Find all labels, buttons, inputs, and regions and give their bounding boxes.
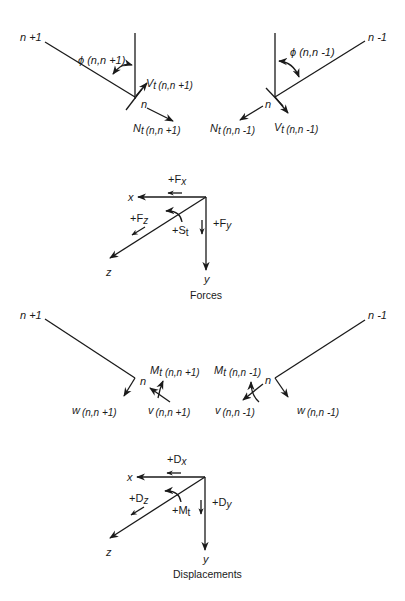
shear-label: Vt(n,n +1) bbox=[146, 77, 193, 91]
angle-label: ϕ (n,n -1) bbox=[290, 46, 335, 58]
displacements-left-member: n +1 n Mt(n,n +1) w(n,n +1) v(n,n +1) bbox=[20, 309, 200, 418]
z-axis-label: z bbox=[105, 266, 112, 278]
moment-label: Mt(n,n -1) bbox=[214, 364, 261, 378]
displacements-right-member: n -1 n Mt(n,n -1) v(n,n -1) w(n,n -1) bbox=[214, 309, 387, 418]
far-node-label: n +1 bbox=[20, 309, 42, 321]
forces-caption: Forces bbox=[190, 289, 222, 301]
node-label: n bbox=[140, 375, 146, 387]
v-label: v(n,n +1) bbox=[148, 404, 190, 418]
moment-label: Mt(n,n +1) bbox=[150, 364, 200, 378]
fx-label: +Fx bbox=[168, 173, 187, 187]
dz-label: +Dz bbox=[129, 492, 148, 506]
w-arrow-icon bbox=[275, 378, 288, 397]
displacements-caption: Displacements bbox=[173, 568, 242, 580]
diagram-canvas: n +1 n ϕ (n,n +1) Vt(n,n +1) Nt(n,n +1) … bbox=[0, 0, 405, 601]
fy-label: +Fy bbox=[213, 217, 232, 231]
y-axis-label: y bbox=[202, 553, 210, 565]
member-line bbox=[275, 320, 365, 378]
far-node-label: n -1 bbox=[368, 309, 387, 321]
shear-arrow-icon bbox=[275, 97, 288, 113]
normal-label: Nt(n,n -1) bbox=[210, 122, 255, 136]
dz-arrow-icon bbox=[131, 507, 144, 515]
z-axis-arrow-icon bbox=[110, 477, 205, 538]
node-label: n bbox=[265, 374, 271, 386]
moment-arrow-icon bbox=[251, 382, 259, 402]
node-label: n bbox=[141, 98, 147, 110]
w-label: w(n,n +1) bbox=[72, 404, 117, 418]
rotation-label: +Mt bbox=[172, 504, 191, 518]
forces-left-member: n +1 n ϕ (n,n +1) Vt(n,n +1) Nt(n,n +1) bbox=[20, 31, 193, 136]
w-label: w(n,n -1) bbox=[297, 404, 339, 418]
dx-label: +Dx bbox=[167, 453, 187, 467]
node-label: n bbox=[265, 98, 271, 110]
normal-arrow-icon bbox=[147, 108, 173, 121]
normal-label: Nt(n,n +1) bbox=[133, 122, 180, 136]
fz-arrow-icon bbox=[132, 227, 145, 235]
x-axis-label: x bbox=[126, 471, 133, 483]
shear-label: Vt(n,n -1) bbox=[274, 121, 318, 135]
normal-arrow-icon bbox=[240, 106, 263, 120]
z-axis-label: z bbox=[105, 546, 112, 558]
forces-right-member: n -1 n ϕ (n,n -1) Vt(n,n -1) Nt(n,n -1) bbox=[210, 31, 387, 136]
y-axis-label: y bbox=[203, 273, 211, 285]
w-arrow-icon bbox=[124, 378, 135, 396]
forces-axes: x y z +Fx +Fy +Fz +St Forces bbox=[105, 173, 232, 301]
sign-convention-diagram: n +1 n ϕ (n,n +1) Vt(n,n +1) Nt(n,n +1) … bbox=[0, 0, 405, 601]
z-axis-arrow-icon bbox=[110, 197, 206, 258]
x-axis-label: x bbox=[127, 191, 134, 203]
far-node-label: n +1 bbox=[20, 31, 42, 43]
angle-arrow-icon bbox=[279, 61, 299, 77]
far-node-label: n -1 bbox=[368, 31, 387, 43]
fz-label: +Fz bbox=[130, 212, 148, 226]
displacements-axes: x y z +Dx +Dy +Dz +Mt Displacements bbox=[105, 453, 242, 580]
angle-label: ϕ (n,n +1) bbox=[78, 54, 126, 66]
dy-label: +Dy bbox=[212, 496, 232, 510]
rotation-moment-arrow-icon bbox=[165, 491, 181, 502]
member-line bbox=[45, 42, 135, 97]
v-label: v(n,n -1) bbox=[215, 404, 255, 418]
member-line bbox=[45, 319, 135, 378]
torsion-label: +St bbox=[172, 224, 189, 238]
